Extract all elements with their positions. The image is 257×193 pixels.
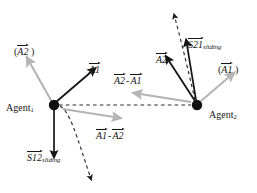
vector-symbol-a2-term: A2	[112, 128, 123, 141]
agent1-name: Agent	[6, 102, 30, 113]
agent1-index: 1	[30, 106, 33, 113]
label-a2-text: A2	[156, 55, 167, 65]
figure-canvas: (A2 ) A1 S12sliding A1-A2 A2-A1 A2 S21sl…	[0, 0, 257, 193]
label-a1-term-text: A1	[96, 131, 107, 141]
agent2-node	[192, 100, 202, 110]
vector-symbol-a1-term: A1	[130, 73, 141, 86]
vector-symbol-a2: A2	[156, 52, 167, 65]
agent1-node	[49, 100, 59, 110]
label-a1-text: A1	[89, 65, 100, 75]
label-a2-term-text: A2	[114, 76, 125, 86]
vector-symbol-s12: S12	[27, 150, 42, 163]
label-a2-actual-right: A2	[156, 52, 167, 65]
label-agent1: Agent1	[6, 103, 34, 113]
vector-a1-actual-left	[56, 72, 91, 102]
label-a2-minus-a1: A2-A1	[114, 73, 142, 86]
vector-symbol-a1: A1	[89, 62, 100, 75]
vector-a2-minus-a1-gray	[140, 94, 191, 102]
label-a1-text: A1	[221, 65, 232, 75]
agent2-name: Agent	[209, 109, 233, 120]
vector-symbol-a1: A1	[221, 62, 232, 75]
vector-symbol-s21: S21	[188, 37, 203, 50]
label-a2-term-text: A2	[112, 131, 123, 141]
label-a1-actual-left: A1	[89, 62, 100, 75]
label-a1-term-text: A1	[130, 76, 141, 86]
label-s21-indices: 21	[193, 40, 203, 50]
label-s12-indices: 12	[32, 153, 42, 163]
label-s21-subscript: sliding	[203, 43, 222, 50]
label-s12-subscript: sliding	[42, 156, 61, 163]
label-a2-desired-left: (A2 )	[14, 44, 34, 57]
vector-symbol-a1-term: A1	[96, 128, 107, 141]
agent2-index: 2	[233, 113, 236, 120]
vector-a2-minus-a1-dashed	[175, 18, 195, 100]
vector-symbol-a2-term: A2	[114, 73, 125, 86]
label-paren-close: )	[232, 64, 238, 75]
label-agent2: Agent2	[209, 110, 237, 120]
vector-a1-desired-right	[201, 77, 229, 101]
label-a2-text: A2	[17, 47, 28, 57]
label-s12-sliding: S12sliding	[27, 150, 61, 164]
vector-a2-desired-left	[30, 63, 52, 102]
label-paren-close: )	[28, 46, 34, 57]
vector-symbol-a2: A2	[17, 44, 28, 57]
label-a1-desired-right: (A1 )	[218, 62, 238, 75]
vector-a1-minus-a2-gray	[63, 109, 114, 117]
vector-a1-minus-a2-dashed	[60, 106, 90, 176]
label-a1-minus-a2: A1-A2	[96, 128, 124, 141]
label-s21-sliding: S21sliding	[188, 37, 222, 51]
